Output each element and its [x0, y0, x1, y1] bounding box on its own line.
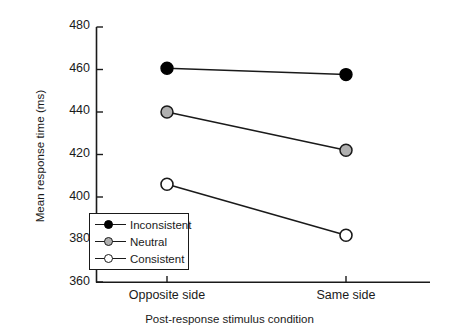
legend-label-consistent: Consistent [126, 253, 184, 265]
legend-item-neutral: Neutral [95, 233, 167, 250]
legend-label-neutral: Neutral [126, 236, 167, 248]
chart-figure: Mean response time (ms) 480 460 440 420 … [0, 0, 459, 336]
gray-circle-marker-icon [95, 235, 126, 249]
series-inconsistent [161, 62, 352, 80]
data-point-consistent-opposite [161, 178, 173, 190]
plot-area [0, 0, 459, 336]
data-point-neutral-opposite [161, 106, 173, 118]
legend-item-consistent: Consistent [95, 250, 184, 267]
legend: Inconsistent Neutral Consistent [89, 213, 189, 270]
data-point-inconsistent-same [340, 69, 352, 81]
open-circle-marker-icon [95, 252, 126, 266]
legend-item-inconsistent: Inconsistent [95, 216, 191, 233]
data-point-consistent-same [340, 229, 352, 241]
x-axis-title: Post-response stimulus condition [0, 313, 459, 325]
filled-circle-marker-icon [95, 218, 126, 232]
data-point-neutral-same [340, 144, 352, 156]
data-point-inconsistent-opposite [161, 62, 173, 74]
x-tick-label-opposite-side: Opposite side [97, 289, 237, 302]
x-tick-label-same-side: Same side [276, 289, 416, 302]
legend-label-inconsistent: Inconsistent [126, 219, 191, 231]
series-neutral [161, 106, 352, 156]
x-tick-marks [167, 276, 346, 282]
